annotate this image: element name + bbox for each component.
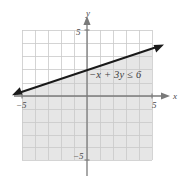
x-axis-name-label: x — [173, 92, 177, 101]
x-axis-tick-label-negative-five: −5 — [16, 101, 27, 110]
inequality-expression-label: −x + 3y ≤ 6 — [89, 70, 141, 81]
inequality-graph-figure: 5 −5 −5 5 y x −x + 3y ≤ 6 — [0, 0, 186, 184]
y-axis-name-label: y — [86, 9, 90, 18]
y-axis-tick-label-negative-five: −5 — [73, 152, 84, 161]
y-axis-tick-label-positive-five: 5 — [76, 28, 81, 37]
x-axis-tick-label-positive-five: 5 — [152, 101, 157, 110]
coordinate-plane-svg — [0, 0, 186, 184]
